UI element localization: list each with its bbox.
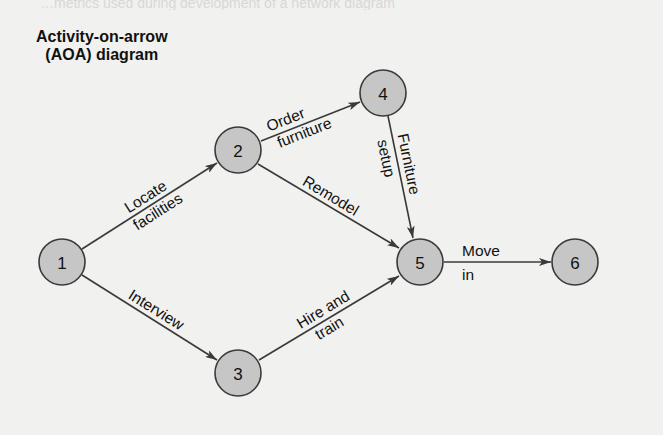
node-label: 6 (570, 254, 579, 273)
diagram-canvas: …metrics used during development of a ne… (0, 0, 663, 435)
aoa-network: Locate facilities Interview Order furnit… (0, 0, 663, 435)
node-5: 5 (397, 239, 443, 285)
node-label: 3 (233, 365, 242, 384)
edge-label-top: Furniture (395, 132, 424, 196)
edge-label-top: Remodel (300, 172, 362, 219)
edge-label-top: Move (462, 242, 500, 259)
edge-label-bottom: setup (374, 138, 398, 179)
node-4: 4 (360, 70, 406, 116)
edge-1-3 (82, 275, 217, 360)
node-label: 2 (233, 142, 242, 161)
edge-label-remodel: Remodel (300, 172, 362, 219)
node-2: 2 (215, 127, 261, 173)
edge-label-interview: Interview (126, 286, 188, 334)
node-3: 3 (215, 350, 261, 396)
node-label: 1 (57, 254, 66, 273)
edge-label-top: Interview (126, 286, 188, 334)
node-label: 5 (415, 254, 424, 273)
edge-label-order-furniture: Order furniture (264, 96, 334, 152)
edge-2-5 (258, 164, 399, 248)
node-6: 6 (552, 239, 598, 285)
node-label: 4 (378, 85, 387, 104)
edge-label-bottom: in (462, 266, 474, 283)
edge-label-hire-and-train: Hire and train (293, 287, 362, 348)
node-1: 1 (39, 239, 85, 285)
